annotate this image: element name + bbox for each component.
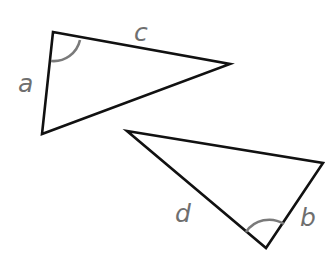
side-label-c: c xyxy=(134,18,148,47)
angle-arc-icon xyxy=(51,40,80,61)
triangle-1: a c xyxy=(18,18,230,134)
triangle-2-outline xyxy=(127,131,323,248)
triangles-diagram: a c d b xyxy=(0,0,336,264)
triangle-1-outline xyxy=(42,32,230,134)
side-label-b: b xyxy=(300,203,316,232)
triangle-2: d b xyxy=(127,131,323,248)
side-label-a: a xyxy=(18,69,33,98)
side-label-d: d xyxy=(175,199,191,228)
